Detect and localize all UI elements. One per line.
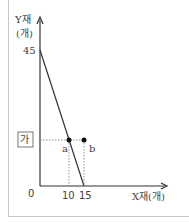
y-tick-45: 45	[23, 46, 36, 56]
point-b-label: b	[89, 144, 95, 154]
point-a-label: a	[62, 144, 68, 154]
y-marker-label: 가	[20, 135, 29, 145]
y-axis-unit: (개)	[16, 29, 33, 39]
x-axis-label: X재(개)	[132, 192, 165, 202]
x-tick-10: 10	[62, 191, 75, 201]
y-axis-label: Y재	[15, 15, 31, 25]
point-b	[82, 138, 87, 143]
origin-label: 0	[28, 189, 34, 199]
budget-line	[40, 50, 84, 186]
point-a	[67, 138, 72, 143]
x-tick-15: 15	[79, 191, 92, 201]
